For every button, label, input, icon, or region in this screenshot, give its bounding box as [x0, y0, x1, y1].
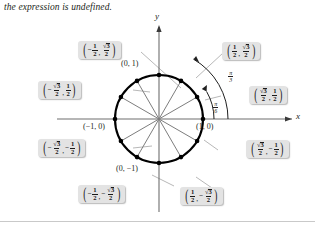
- coord-210-y-fraction: 12: [70, 141, 75, 155]
- coord-330-y-denominator: 2: [274, 149, 279, 157]
- coord-330-x-radical-icon: √3: [257, 142, 264, 149]
- coord-box-330: (√32,−12): [246, 140, 289, 158]
- coord-150-x-radical-icon: √3: [53, 83, 60, 90]
- coord-330-y-minus-sign: −: [269, 146, 273, 153]
- coord-240-y-fraction: √32: [106, 187, 115, 201]
- coord-240-x-numerator: 1: [92, 187, 97, 194]
- coord-300-x-numerator: 1: [190, 189, 195, 196]
- coord-box-300: (12,−√32): [180, 187, 223, 205]
- left-paren: (: [83, 189, 86, 200]
- ordered-pair-comma: ,: [62, 89, 64, 98]
- ordered-pair-comma: ,: [99, 49, 101, 58]
- coord-210-x-numerator: √3: [52, 141, 61, 148]
- coord-210-y-numerator: 1: [70, 141, 75, 148]
- coord-30-x-denominator: 2: [261, 95, 266, 103]
- coord-120-y-fraction: √32: [102, 43, 111, 57]
- coord-330-x-numerator: √3: [256, 142, 265, 149]
- coord-box-30: (√32,12): [249, 86, 287, 104]
- coord-60-y-numerator: √3: [242, 44, 251, 51]
- coord-120-y-denominator: 2: [104, 50, 109, 58]
- coord-120-y-radical-icon: √3: [103, 43, 110, 50]
- angle-pi6-denominator: 6: [213, 107, 218, 114]
- coord-240-y-denominator: 2: [108, 194, 113, 202]
- coord-120-x-minus-sign: −: [88, 47, 92, 54]
- coord-30-x-numerator: √3: [259, 88, 268, 95]
- x-axis-label: x: [296, 111, 300, 121]
- ordered-pair-comma: ,: [238, 50, 240, 59]
- coord-210-x-minus-sign: −: [48, 145, 52, 152]
- coord-120-y-numerator: √3: [102, 43, 111, 50]
- coord-210-y-denominator: 2: [70, 148, 75, 156]
- left-paren: (: [227, 46, 230, 57]
- coord-330-x-fraction: √32: [256, 142, 265, 156]
- arc-pi-over-3: [194, 59, 229, 119]
- coord-330-y-fraction: 12: [274, 142, 279, 156]
- coord-box-60: (12,√32): [222, 42, 260, 60]
- coord-150-x-numerator: √3: [52, 83, 61, 90]
- coord-150-x-denominator: 2: [54, 90, 59, 98]
- right-paren: ): [72, 85, 75, 96]
- ordered-pair-comma: ,: [269, 94, 271, 103]
- ordered-pair-comma: ,: [266, 148, 268, 157]
- coord-60-x-numerator: 1: [232, 44, 237, 51]
- ordered-pair-comma: ,: [196, 195, 198, 204]
- coord-150-y-fraction: 12: [66, 83, 71, 97]
- coord-120-x-numerator: 1: [92, 43, 97, 50]
- coord-150-x-fraction: √32: [52, 83, 61, 97]
- left-paren: (: [185, 191, 188, 202]
- right-paren: ): [117, 189, 120, 200]
- ordered-pair-comma: ,: [62, 147, 64, 156]
- coord-240-y-radical-icon: √3: [107, 187, 114, 194]
- angle-label-pi-over-6: π 6: [213, 97, 219, 115]
- angle-label-pi-over-3: π 3: [228, 66, 234, 84]
- ordered-pair-comma: ,: [99, 193, 101, 202]
- coord-240-y-numerator: √3: [106, 187, 115, 194]
- arc-arrowhead-pi6: [202, 85, 207, 92]
- coord-300-x-fraction: 12: [190, 189, 195, 203]
- coord-150-x-minus-sign: −: [48, 87, 52, 94]
- left-paren: (: [43, 143, 46, 154]
- coord-30-y-fraction: 12: [272, 88, 277, 102]
- y-axis-label: y: [155, 11, 159, 21]
- arc-arrowhead-pi3: [194, 56, 200, 63]
- coord-box-150: (−√32,12): [38, 81, 81, 99]
- coord-30-y-denominator: 2: [272, 95, 277, 103]
- x-axis-arrowhead: [285, 116, 292, 121]
- coord-60-y-radical-icon: √3: [243, 44, 250, 51]
- coord-330-y-numerator: 1: [274, 142, 279, 149]
- coord-300-y-fraction: √32: [204, 189, 213, 203]
- coord-210-x-fraction: √32: [52, 141, 61, 155]
- right-paren: ): [280, 144, 283, 155]
- point-0-neg1-label: (0, −1): [116, 164, 138, 173]
- left-paren: (: [83, 45, 86, 56]
- figure-canvas: [0, 0, 315, 225]
- coord-240-x-minus-sign: −: [88, 191, 92, 198]
- coord-60-x-fraction: 12: [232, 44, 237, 58]
- point-1-0-label: (1, 0): [196, 122, 213, 131]
- coord-120-x-fraction: 12: [92, 43, 97, 57]
- right-paren: ): [112, 45, 115, 56]
- coord-210-x-radical-icon: √3: [53, 141, 60, 148]
- coord-240-x-fraction: 12: [92, 187, 97, 201]
- angle-pi3-denominator: 3: [228, 76, 233, 83]
- coord-30-x-fraction: √32: [259, 88, 268, 102]
- right-paren: ): [214, 191, 217, 202]
- coord-box-240: (−12,−√32): [78, 185, 125, 203]
- coord-120-x-denominator: 2: [92, 50, 97, 58]
- coord-210-x-denominator: 2: [54, 148, 59, 156]
- coord-60-x-denominator: 2: [232, 51, 237, 59]
- angle-arcs: [194, 59, 229, 119]
- right-paren: ): [77, 143, 80, 154]
- coord-240-x-denominator: 2: [92, 194, 97, 202]
- left-paren: (: [254, 90, 257, 101]
- coord-240-y-minus-sign: −: [102, 191, 106, 198]
- unit-circle-figure: the expression is undefined.: [0, 0, 315, 225]
- coord-150-y-numerator: 1: [66, 83, 71, 90]
- coord-300-x-denominator: 2: [190, 196, 195, 204]
- left-paren: (: [43, 85, 46, 96]
- right-paren: ): [252, 46, 255, 57]
- point-neg1-0-label: (−1, 0): [83, 122, 105, 131]
- coord-330-x-denominator: 2: [258, 149, 263, 157]
- coord-300-y-radical-icon: √3: [205, 189, 212, 196]
- coord-300-y-minus-sign: −: [199, 193, 203, 200]
